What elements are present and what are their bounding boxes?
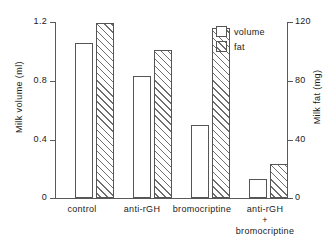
y-axis-right-tick-mark [288, 198, 293, 199]
bar-fat [270, 164, 288, 198]
y-axis-right-tick-mark [288, 140, 293, 141]
y-axis-right-tick-label: 80 [295, 75, 335, 85]
y-axis-right-tick-label: 120 [295, 16, 335, 26]
x-axis-category-label: anti-rGH + bromocriptine [219, 204, 311, 237]
legend-label-fat: fat [234, 42, 245, 52]
bar-fat [154, 50, 172, 198]
legend-label-volume: volume [234, 27, 265, 37]
x-axis-line [55, 198, 288, 199]
legend-item-volume: volume [216, 24, 265, 39]
y-axis-right-tick-label: 0 [295, 192, 335, 202]
bar-volume [249, 179, 267, 198]
bar-volume [75, 43, 93, 198]
y-axis-right-tick-mark [288, 22, 293, 23]
legend-item-fat: fat [216, 39, 265, 54]
y-axis-left-tick-label: 1.2 [7, 16, 47, 26]
bar-volume [191, 125, 209, 198]
y-axis-right-tick-mark [288, 81, 293, 82]
legend: volume fat [216, 24, 265, 54]
bar-chart: Milk volume (ml) Milk fat (mg) 1.2 0.8 0… [0, 0, 335, 243]
y-axis-left-tick-label: 0 [7, 192, 47, 202]
y-axis-left-tick-label: 0.8 [7, 75, 47, 85]
y-axis-left-tick-label: 0.4 [7, 134, 47, 144]
legend-swatch-fat-icon [216, 41, 227, 52]
bar-volume [133, 76, 151, 198]
y-axis-right-tick-label: 40 [295, 134, 335, 144]
y-axis-left-tick-mark [50, 198, 55, 199]
bar-fat [96, 23, 114, 198]
legend-swatch-volume-icon [216, 26, 227, 37]
